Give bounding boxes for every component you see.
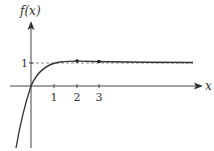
- x-axis-label: x: [205, 79, 212, 93]
- y-tick-label-1: 1: [21, 57, 28, 70]
- x-tick-label-2: 2: [74, 91, 81, 104]
- point-x2: [75, 59, 79, 63]
- function-curve: [16, 61, 193, 148]
- x-tick-label-1: 1: [51, 91, 58, 104]
- y-axis-label: f(x): [19, 4, 41, 18]
- x-tick-label-3: 3: [96, 91, 103, 104]
- point-x3: [97, 60, 101, 64]
- function-graph: f(x) x 1 2 3 1: [0, 0, 214, 151]
